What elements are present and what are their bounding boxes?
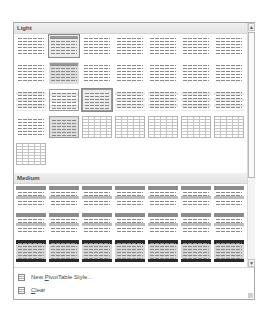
style-thumb-medium-18[interactable] xyxy=(115,240,145,262)
style-thumb-medium-12[interactable] xyxy=(148,213,178,235)
thumb-row xyxy=(85,102,109,103)
thumb-row xyxy=(183,53,209,54)
style-thumb-medium-10[interactable] xyxy=(82,213,112,235)
new-pivottable-style-menu-item[interactable]: New PivotTable Style... xyxy=(16,271,252,284)
style-thumb-medium-19[interactable] xyxy=(148,240,178,262)
thumb-row xyxy=(18,107,44,108)
thumb-row xyxy=(216,246,242,247)
scroll-thumb[interactable] xyxy=(248,32,255,178)
style-thumb-medium-4[interactable] xyxy=(115,186,145,208)
thumb-row xyxy=(150,44,176,45)
style-thumb-light-28[interactable] xyxy=(214,116,244,138)
style-thumb-medium-15[interactable] xyxy=(16,240,46,262)
thumb-row xyxy=(18,122,44,123)
thumb-row xyxy=(18,258,44,259)
style-thumb-medium-16[interactable] xyxy=(49,240,79,262)
style-thumb-medium-9[interactable] xyxy=(49,213,79,235)
style-thumb-light-5[interactable] xyxy=(148,35,178,57)
thumb-row xyxy=(150,189,176,190)
resize-grip[interactable] xyxy=(248,293,253,298)
new-pivottable-style-label: New PivotTable Style... xyxy=(31,271,92,284)
style-thumb-light-27[interactable] xyxy=(181,116,211,138)
thumb-row xyxy=(150,258,176,259)
thumb-row xyxy=(84,255,110,256)
style-thumb-light-29[interactable] xyxy=(16,143,46,165)
style-thumb-medium-7[interactable] xyxy=(214,186,244,208)
thumb-row xyxy=(183,44,209,45)
style-thumb-medium-11[interactable] xyxy=(115,213,145,235)
style-thumb-light-19[interactable] xyxy=(148,89,178,111)
style-thumb-medium-6[interactable] xyxy=(181,186,211,208)
thumb-row xyxy=(18,134,44,135)
thumb-row xyxy=(51,80,77,81)
thumb-row xyxy=(216,189,242,190)
thumb-row xyxy=(84,243,110,244)
thumb-row xyxy=(51,216,77,217)
thumb-row xyxy=(84,65,110,66)
thumb-row xyxy=(52,93,76,94)
thumb-row xyxy=(51,231,77,232)
thumb-row xyxy=(216,252,242,253)
thumb-row xyxy=(84,249,110,250)
thumb-row xyxy=(84,216,110,217)
style-thumb-medium-14[interactable] xyxy=(214,213,244,235)
style-thumb-light-20[interactable] xyxy=(181,89,211,111)
thumb-row xyxy=(84,44,110,45)
style-thumb-light-12[interactable] xyxy=(148,62,178,84)
style-thumb-light-10[interactable] xyxy=(82,62,112,84)
thumb-row xyxy=(51,198,77,199)
thumb-row xyxy=(150,216,176,217)
style-thumb-light-13[interactable] xyxy=(181,62,211,84)
style-thumb-light-25[interactable] xyxy=(115,116,145,138)
style-thumb-light-6[interactable] xyxy=(181,35,211,57)
style-thumb-light-14[interactable] xyxy=(214,62,244,84)
thumb-row xyxy=(85,96,109,97)
style-thumb-light-7[interactable] xyxy=(214,35,244,57)
style-thumb-light-17[interactable] xyxy=(82,89,112,111)
thumb-row xyxy=(51,195,77,196)
scroll-down-button[interactable]: ▼ xyxy=(248,259,255,267)
thumb-row xyxy=(84,38,110,39)
style-thumb-medium-21[interactable] xyxy=(214,240,244,262)
thumb-row xyxy=(51,50,77,51)
thumb-row xyxy=(51,228,77,229)
style-thumb-light-16[interactable] xyxy=(49,89,79,111)
thumb-row xyxy=(117,216,143,217)
style-thumb-medium-17[interactable] xyxy=(82,240,112,262)
thumb-row xyxy=(150,80,176,81)
gallery-scrollbar[interactable]: ▲ ▼ xyxy=(247,23,255,267)
thumb-row xyxy=(183,204,209,205)
style-thumb-medium-1[interactable] xyxy=(16,186,46,208)
style-thumb-medium-20[interactable] xyxy=(181,240,211,262)
style-thumb-medium-13[interactable] xyxy=(181,213,211,235)
style-thumb-light-24[interactable] xyxy=(82,116,112,138)
style-thumb-light-26[interactable] xyxy=(148,116,178,138)
thumb-row xyxy=(216,65,242,66)
thumb-row xyxy=(84,50,110,51)
thumb-row xyxy=(117,74,143,75)
style-thumb-light-22[interactable] xyxy=(16,116,46,138)
style-thumb-light-18[interactable] xyxy=(115,89,145,111)
style-thumb-light-2[interactable] xyxy=(49,35,79,57)
style-thumb-light-11[interactable] xyxy=(115,62,145,84)
style-thumb-light-1[interactable] xyxy=(16,35,46,57)
style-thumb-light-15[interactable] xyxy=(16,89,46,111)
style-thumb-light-23[interactable] xyxy=(49,116,79,138)
thumb-row xyxy=(84,225,110,226)
scroll-up-button[interactable]: ▲ xyxy=(248,23,255,31)
style-thumb-light-4[interactable] xyxy=(115,35,145,57)
style-thumb-light-8[interactable] xyxy=(16,62,46,84)
thumb-row xyxy=(117,107,143,108)
style-thumb-light-9[interactable] xyxy=(49,62,79,84)
clear-menu-item[interactable]: Clear xyxy=(16,284,252,297)
thumb-row xyxy=(117,68,143,69)
style-thumb-light-21[interactable] xyxy=(214,89,244,111)
thumb-row xyxy=(51,246,77,247)
thumb-row xyxy=(216,92,242,93)
style-thumb-medium-5[interactable] xyxy=(148,186,178,208)
style-thumb-medium-8[interactable] xyxy=(16,213,46,235)
style-thumb-medium-3[interactable] xyxy=(82,186,112,208)
thumb-row xyxy=(18,225,44,226)
style-thumb-medium-2[interactable] xyxy=(49,186,79,208)
style-thumb-light-3[interactable] xyxy=(82,35,112,57)
